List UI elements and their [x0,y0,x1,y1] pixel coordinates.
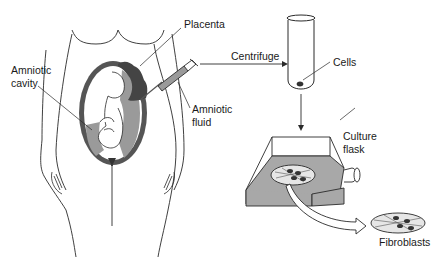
hip-crease-right [164,172,175,194]
cell-pellet [297,82,303,86]
label-cells: Cells [333,56,356,68]
label-culture-flask-line1: Culture [343,130,377,142]
label-amniotic-cavity-line2: cavity [11,77,38,89]
fibroblasts-dish-icon [371,213,425,233]
label-fibroblasts: Fibroblasts [379,236,430,248]
label-placenta: Placenta [184,18,225,30]
label-amniotic-cavity-line1: Amniotic [11,64,51,76]
test-tube-icon [287,15,315,89]
amniocentesis-diagram [0,0,448,257]
label-culture-flask-line2: flask [343,143,365,155]
syringe-icon [140,59,198,100]
uterus [79,61,147,166]
label-centrifuge: Centrifuge [231,50,279,62]
label-amniotic-fluid-line1: Amniotic [192,103,232,115]
label-amniotic-fluid-line2: fluid [192,116,211,128]
arrow-to-flask [298,94,304,131]
